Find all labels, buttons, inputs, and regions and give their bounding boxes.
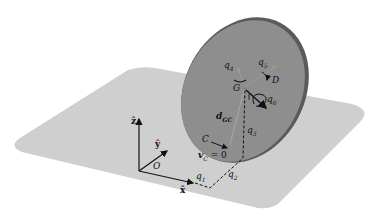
- contact-velocity-label: vC = 0: [198, 151, 227, 162]
- center-g-label: G: [233, 84, 240, 93]
- origin-label: O: [153, 162, 160, 171]
- contact-c-label: C: [202, 135, 209, 144]
- x-axis-label: x̂: [180, 186, 185, 195]
- q1-label: q1: [196, 172, 206, 183]
- q4-label: q4: [224, 61, 234, 72]
- z-axis-label: ẑ: [131, 117, 136, 126]
- q2-label: q2: [228, 170, 238, 181]
- q5-label: q5: [258, 58, 268, 69]
- rolling-disk-diagram: ẑ ŷ x̂ O q1 q2 q3 q4 q5 q6 G D C dGC vC …: [0, 0, 380, 218]
- y-axis-label: ŷ: [155, 140, 160, 149]
- diagram-canvas: [0, 0, 380, 218]
- d-gc-label: dGC: [216, 112, 232, 123]
- q6-label: q6: [267, 95, 277, 106]
- disk-d-label: D: [272, 76, 279, 85]
- q3-label: q3: [247, 126, 257, 137]
